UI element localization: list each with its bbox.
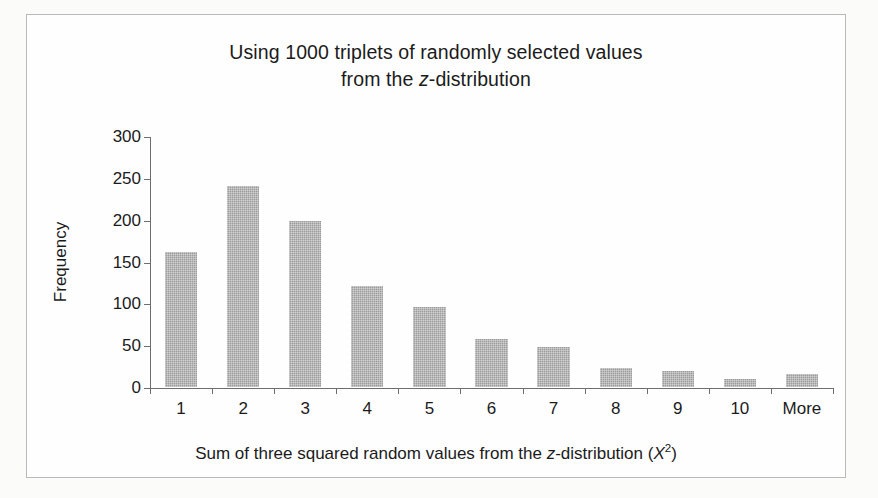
x-tick-label-1: 1	[176, 399, 185, 419]
x-tick-3	[336, 388, 337, 394]
figure-page: Using 1000 triplets of randomly selected…	[0, 0, 878, 498]
chart-title-line-2: from the z-distribution	[27, 66, 845, 93]
x-tick-5	[460, 388, 461, 394]
chart-title-line-1: Using 1000 triplets of randomly selected…	[27, 39, 845, 66]
x-axis-line	[150, 388, 834, 389]
bar-7	[537, 347, 569, 387]
bar-10	[724, 379, 756, 387]
x-tick-label-7: 7	[549, 399, 558, 419]
chart-title: Using 1000 triplets of randomly selected…	[27, 39, 845, 93]
x-tick-label-6: 6	[487, 399, 496, 419]
x-tick-10	[771, 388, 772, 394]
x-tick-9	[709, 388, 710, 394]
y-tick-150	[144, 263, 150, 264]
y-tick-label-50: 50	[122, 336, 141, 356]
plot-area: 050100150200250300 12345678910More	[150, 137, 833, 388]
y-tick-label-250: 250	[113, 169, 141, 189]
x-tick-label-2: 2	[238, 399, 247, 419]
y-tick-label-200: 200	[113, 211, 141, 231]
y-tick-200	[144, 221, 150, 222]
x-tick-4	[398, 388, 399, 394]
y-tick-label-100: 100	[113, 294, 141, 314]
bar-6	[475, 339, 507, 387]
x-tick-label-More: More	[783, 399, 822, 419]
bar-8	[600, 368, 632, 387]
x-tick-2	[274, 388, 275, 394]
bar-5	[413, 307, 445, 387]
chart-title-line-2-prefix: from the	[341, 68, 419, 90]
x-tick-6	[523, 388, 524, 394]
y-tick-250	[144, 179, 150, 180]
x-axis-title-italic-z: z	[547, 444, 556, 463]
x-tick-11	[833, 388, 834, 394]
y-axis-title: Frequency	[51, 222, 71, 302]
x-tick-label-4: 4	[363, 399, 372, 419]
x-axis-title-part1: Sum of three squared random values from …	[195, 444, 547, 463]
chart-title-line-2-suffix: -distribution	[429, 68, 531, 90]
x-tick-label-10: 10	[730, 399, 749, 419]
y-tick-100	[144, 304, 150, 305]
y-tick-label-300: 300	[113, 127, 141, 147]
x-axis-title: Sum of three squared random values from …	[27, 442, 845, 464]
y-tick-50	[144, 346, 150, 347]
chart-title-line-2-italic: z	[419, 68, 429, 90]
x-tick-label-8: 8	[611, 399, 620, 419]
y-tick-label-0: 0	[132, 378, 141, 398]
figure-frame: Using 1000 triplets of randomly selected…	[26, 14, 846, 478]
x-tick-8	[647, 388, 648, 394]
bar-More	[786, 374, 818, 387]
y-tick-label-150: 150	[113, 253, 141, 273]
x-tick-label-9: 9	[673, 399, 682, 419]
x-axis-title-part3: )	[671, 444, 677, 463]
bar-1	[165, 252, 197, 387]
y-axis-line	[150, 137, 151, 389]
x-tick-label-5: 5	[425, 399, 434, 419]
bar-9	[662, 371, 694, 387]
x-tick-7	[585, 388, 586, 394]
x-axis-title-italic-X: X	[653, 444, 664, 463]
bar-2	[227, 186, 259, 387]
x-tick-0	[150, 388, 151, 394]
x-axis-title-part2: -distribution (	[555, 444, 653, 463]
x-tick-label-3: 3	[300, 399, 309, 419]
y-tick-300	[144, 137, 150, 138]
x-tick-1	[212, 388, 213, 394]
bar-4	[351, 286, 383, 387]
bar-3	[289, 221, 321, 387]
